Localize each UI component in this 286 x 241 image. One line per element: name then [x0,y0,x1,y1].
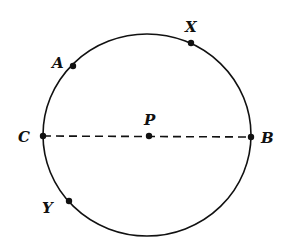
label-y: Y [42,199,54,217]
point-a [70,63,76,69]
label-b: B [260,129,274,147]
label-c: C [18,128,30,146]
circle-diagram: A X C B P Y [0,0,286,241]
point-x [188,40,194,46]
point-c [40,133,46,139]
label-a: A [50,54,64,72]
label-x: X [184,18,198,36]
point-b [248,134,254,140]
point-y [66,198,72,204]
point-p-center [146,133,152,139]
label-p: P [143,111,156,129]
